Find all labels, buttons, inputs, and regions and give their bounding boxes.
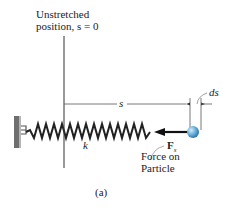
particle bbox=[187, 126, 199, 138]
figure-caption: (a) bbox=[95, 186, 107, 198]
unstretched-label-line2: position, s = 0 bbox=[36, 20, 98, 32]
force-caption-line2: Particle bbox=[141, 162, 175, 174]
wall bbox=[14, 116, 19, 148]
unstretched-label-line1: Unstretched bbox=[36, 8, 89, 20]
force-caption-line1: Force on bbox=[141, 150, 180, 162]
spring bbox=[26, 124, 150, 138]
displacement-label: s bbox=[119, 97, 123, 109]
differential-label: ds bbox=[209, 86, 219, 98]
spring-constant-label: k bbox=[83, 139, 88, 151]
